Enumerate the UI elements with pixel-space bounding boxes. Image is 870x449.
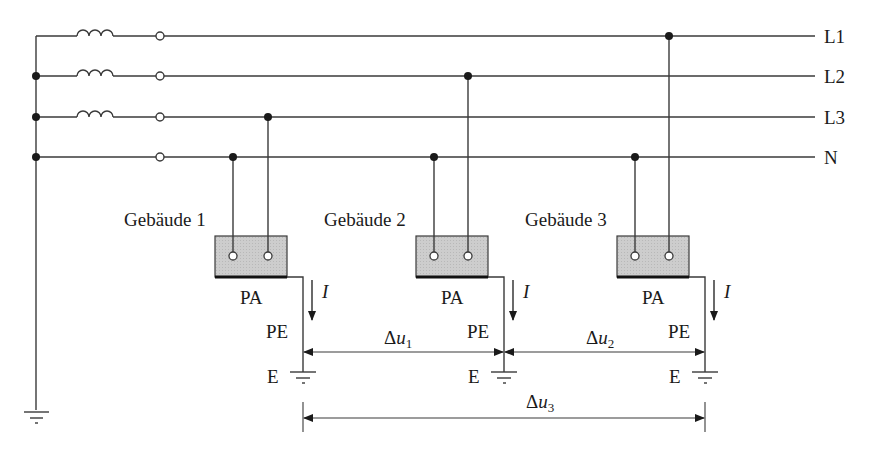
building-2-title: Gebäude 2 — [324, 210, 406, 229]
conductor-L3 — [36, 111, 815, 117]
inductor-icon — [77, 30, 113, 36]
inductor-icon — [77, 111, 113, 117]
label-L2: L2 — [824, 67, 845, 86]
building-2-current-label: I — [523, 282, 529, 301]
building-2-ground-icon — [491, 372, 517, 383]
conductor-L2 — [36, 70, 815, 76]
source-ground-icon — [24, 412, 49, 423]
voltage-drop-3-label: Δu3 — [526, 392, 554, 414]
building-3-title: Gebäude 3 — [525, 210, 607, 229]
building-2-pa-label: PA — [441, 288, 464, 307]
building-3-ground-icon — [692, 372, 718, 383]
building-1-current-label: I — [322, 282, 328, 301]
junction-dots — [32, 32, 673, 161]
building-3-pe-label: PE — [668, 322, 690, 341]
terminal-icon — [156, 32, 164, 40]
building-3-pa-box — [617, 236, 689, 277]
inductor-icon — [77, 70, 113, 76]
terminal-icon — [156, 72, 164, 80]
building-1-ground-icon — [290, 372, 316, 383]
building-1-pe-label: PE — [266, 322, 288, 341]
terminal-icon — [156, 153, 164, 161]
building-2-pe-line — [488, 277, 504, 372]
label-N: N — [824, 148, 838, 167]
building-3-current-label: I — [724, 282, 730, 301]
building-2-earth-label: E — [468, 367, 480, 386]
building-1-pe-line — [287, 277, 303, 372]
building-3-pe-line — [689, 277, 705, 372]
building-2-pe-label: PE — [467, 322, 489, 341]
voltage-drop-1-label: Δu1 — [384, 328, 412, 350]
label-L3: L3 — [824, 108, 845, 127]
voltage-drop-2-label: Δu2 — [586, 328, 614, 350]
building-3-pa-label: PA — [642, 288, 665, 307]
building-1-pa-label: PA — [240, 288, 263, 307]
building-1-pa-box — [215, 236, 287, 277]
building-2-pa-box — [416, 236, 488, 277]
label-L1: L1 — [824, 27, 845, 46]
building-1-title: Gebäude 1 — [124, 210, 206, 229]
conductor-L1 — [36, 30, 815, 36]
terminal-icon — [156, 113, 164, 121]
building-1-earth-label: E — [267, 367, 279, 386]
building-3-earth-label: E — [669, 367, 681, 386]
